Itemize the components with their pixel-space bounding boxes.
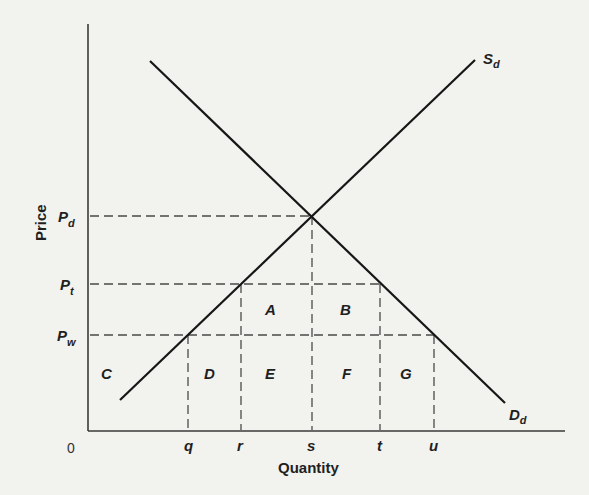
x-axis-title: Quantity — [278, 459, 339, 476]
area-label-e: E — [265, 365, 276, 382]
tick-t: t — [377, 437, 383, 454]
supply-curve — [120, 60, 475, 400]
area-label-c: C — [101, 365, 113, 382]
y-axis-title: Price — [32, 204, 49, 241]
area-label-b: B — [340, 301, 351, 318]
area-label-d: D — [204, 365, 215, 382]
supply-demand-diagram: Sd Dd Price Pd Pt Pw 0 q r s t u Quantit… — [0, 0, 589, 495]
tick-u: u — [429, 437, 438, 454]
tick-r: r — [237, 437, 244, 454]
tick-q: q — [184, 437, 193, 454]
area-label-g: G — [400, 365, 412, 382]
price-label-pt: Pt — [60, 276, 75, 297]
price-label-pd: Pd — [58, 208, 75, 229]
area-label-f: F — [342, 365, 352, 382]
supply-curve-label: Sd — [483, 50, 500, 70]
demand-curve — [150, 61, 505, 403]
demand-curve-label: Dd — [509, 406, 527, 426]
origin-label: 0 — [67, 440, 75, 456]
price-label-pw: Pw — [57, 327, 77, 348]
tick-s: s — [307, 437, 315, 454]
area-label-a: A — [264, 301, 276, 318]
